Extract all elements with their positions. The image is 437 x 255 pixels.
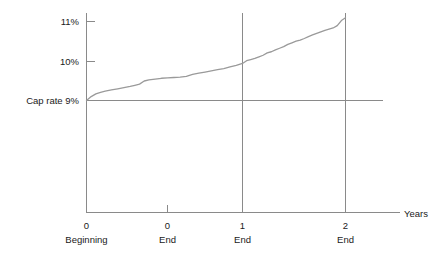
x-axis-title: Years	[404, 208, 428, 219]
chart-page: 11% 10% Cap rate 9% 0 Beginning 0 End 1 …	[0, 0, 437, 255]
cap-rate-line-chart: 11% 10% Cap rate 9% 0 Beginning 0 End 1 …	[0, 0, 437, 255]
x-sublabel-end-2: End	[337, 234, 354, 245]
x-sublabel-beginning: Beginning	[65, 234, 107, 245]
x-tick-label-2-end: 2	[343, 220, 348, 231]
x-sublabel-end-0: End	[159, 234, 176, 245]
x-sublabel-end-1: End	[234, 234, 251, 245]
y-tick-label-11: 11%	[61, 16, 80, 27]
x-tick-label-0-beginning: 0	[84, 220, 89, 231]
x-tick-label-1-end: 1	[240, 220, 245, 231]
x-tick-label-0-end: 0	[165, 220, 170, 231]
y-tick-label-9-cap-rate: Cap rate 9%	[26, 95, 79, 106]
y-tick-label-10: 10%	[60, 56, 80, 67]
yield-line-series	[87, 18, 346, 101]
